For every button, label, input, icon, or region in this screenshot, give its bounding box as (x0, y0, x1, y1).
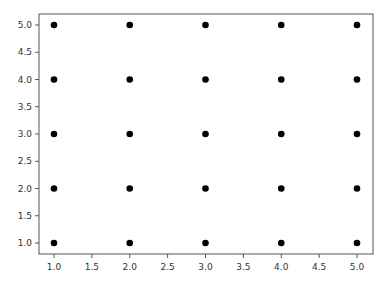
data-point (354, 76, 361, 83)
data-point (126, 22, 133, 29)
data-point (126, 185, 133, 192)
data-point (126, 131, 133, 138)
y-tick-label: 3.0 (18, 129, 33, 139)
data-point (278, 131, 285, 138)
y-tick-label: 2.0 (18, 184, 33, 194)
data-point (354, 185, 361, 192)
data-point (278, 22, 285, 29)
data-point (126, 240, 133, 247)
x-tick-label: 1.5 (85, 262, 99, 272)
y-tick-label: 4.5 (18, 47, 32, 57)
y-tick-label: 5.0 (18, 20, 33, 30)
y-tick-label: 1.5 (18, 211, 32, 221)
scatter-chart: 1.01.52.02.53.03.54.04.55.0 1.01.52.02.5… (0, 0, 386, 281)
data-point (51, 185, 58, 192)
y-tick-label: 3.5 (18, 102, 32, 112)
x-tick-label: 3.0 (198, 262, 213, 272)
x-axis: 1.01.52.02.53.03.54.04.55.0 (47, 254, 365, 272)
data-point (126, 76, 133, 83)
data-point (202, 240, 209, 247)
data-point (354, 240, 361, 247)
x-tick-label: 4.0 (274, 262, 289, 272)
data-point (278, 185, 285, 192)
data-point (202, 22, 209, 29)
data-point (278, 76, 285, 83)
y-tick-label: 4.0 (18, 75, 33, 85)
data-point (202, 131, 209, 138)
x-tick-label: 1.0 (47, 262, 62, 272)
data-point (354, 22, 361, 29)
x-tick-label: 2.5 (160, 262, 174, 272)
data-point (51, 22, 58, 29)
data-point (202, 76, 209, 83)
y-tick-label: 2.5 (18, 156, 32, 166)
data-point (51, 76, 58, 83)
data-point (51, 240, 58, 247)
y-axis: 1.01.52.02.53.03.54.04.55.0 (18, 20, 39, 248)
x-tick-label: 2.0 (123, 262, 138, 272)
x-tick-label: 3.5 (236, 262, 250, 272)
y-tick-label: 1.0 (18, 238, 33, 248)
data-point (354, 131, 361, 138)
data-point (202, 185, 209, 192)
data-point (278, 240, 285, 247)
data-point (51, 131, 58, 138)
x-tick-label: 4.5 (312, 262, 326, 272)
x-tick-label: 5.0 (350, 262, 365, 272)
